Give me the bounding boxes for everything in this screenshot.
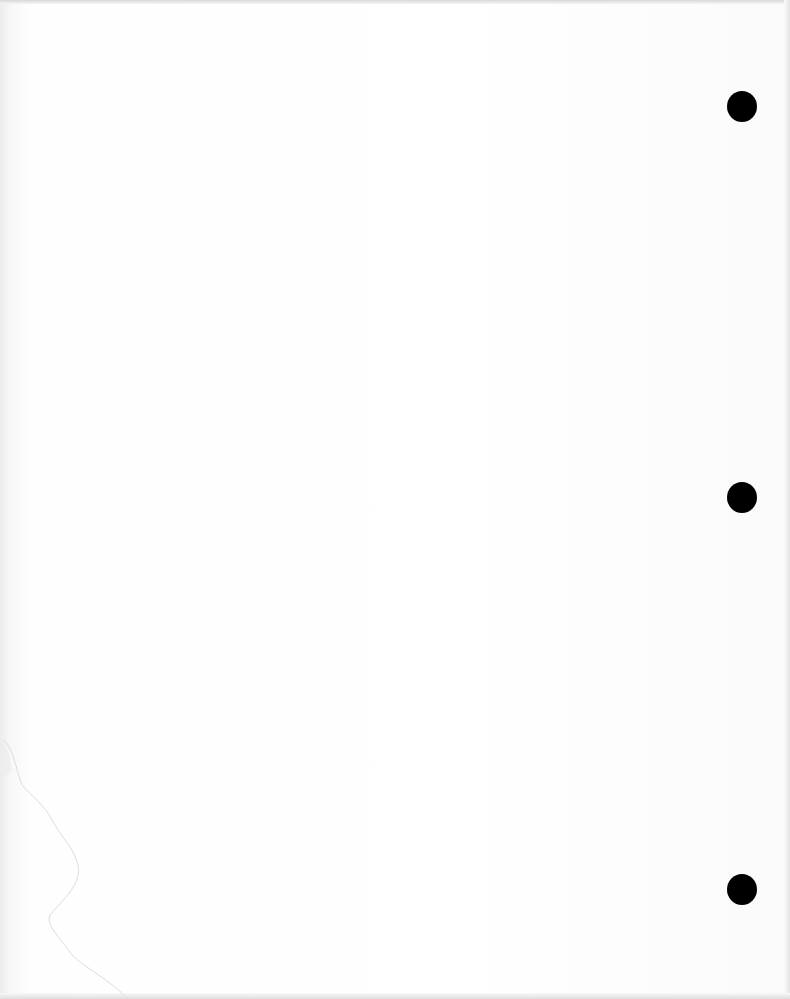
- paper-crease-line: [0, 700, 140, 999]
- punch-hole-bottom: [727, 874, 757, 905]
- faint-show-through: [210, 318, 490, 330]
- scanned-page: [0, 0, 790, 999]
- punch-hole-middle: [727, 482, 757, 513]
- page-right-edge-shadow: [784, 0, 790, 999]
- punch-hole-top: [727, 91, 757, 122]
- page-top-edge-shadow: [0, 0, 790, 4]
